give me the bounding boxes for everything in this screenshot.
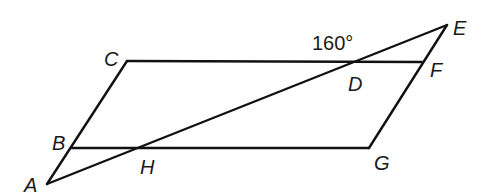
point-label-f: F (430, 59, 444, 81)
geometry-diagram: ABCDEFGH 160° (0, 0, 489, 194)
point-label-h: H (140, 156, 155, 178)
point-label-a: A (23, 174, 37, 194)
angle-label: 160° (312, 32, 353, 54)
point-label-e: E (453, 17, 467, 39)
line-ge (369, 25, 447, 148)
line-cf (127, 61, 422, 62)
point-label-g: G (374, 152, 390, 174)
point-label-c: C (104, 48, 119, 70)
point-label-b: B (52, 132, 65, 154)
line-ac (47, 61, 127, 184)
angle-labels-group: 160° (312, 32, 353, 54)
point-label-d: D (348, 73, 362, 95)
